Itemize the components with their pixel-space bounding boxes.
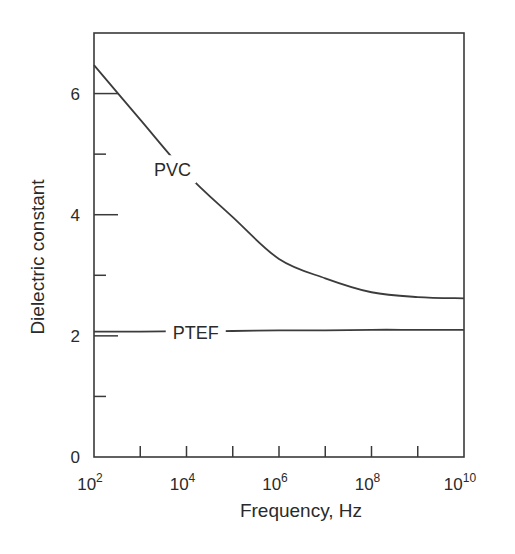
- tick-exponent: 2: [96, 471, 103, 485]
- x-tick-label: 102: [77, 471, 103, 494]
- y-tick-label: 4: [71, 206, 80, 225]
- series-layer: [94, 65, 464, 332]
- series-label-pvc: PVC: [154, 160, 191, 180]
- series-line-pvc: [94, 65, 464, 298]
- series-ptef: [94, 330, 464, 332]
- x-axis-tick-labels: 1021041061081010: [77, 471, 476, 494]
- x-tick-label: 104: [170, 471, 196, 494]
- x-tick-label: 106: [262, 471, 288, 494]
- tick-exponent: 6: [281, 471, 288, 485]
- dielectric-constant-chart: 1021041061081010 0246 PVCPTEF Frequency,…: [0, 0, 515, 554]
- tick-exponent: 10: [463, 471, 477, 485]
- x-axis-title: Frequency, Hz: [240, 500, 362, 521]
- x-axis-ticks: [140, 446, 418, 457]
- tick-base: 10: [444, 475, 463, 494]
- x-tick-label: 1010: [444, 471, 477, 494]
- series-label-ptef: PTEF: [173, 323, 219, 343]
- series-pvc: [94, 65, 464, 298]
- tick-base: 10: [170, 475, 189, 494]
- series-labels: PVCPTEF: [154, 160, 219, 342]
- y-axis-title: Dielectric constant: [27, 179, 48, 335]
- y-tick-label: 2: [71, 327, 80, 346]
- plot-border: [94, 33, 464, 457]
- plot-frame: [94, 33, 464, 457]
- y-tick-label: 6: [71, 85, 80, 104]
- tick-exponent: 8: [374, 471, 381, 485]
- y-axis-ticks: [94, 94, 118, 397]
- tick-base: 10: [77, 475, 96, 494]
- tick-base: 10: [355, 475, 374, 494]
- y-tick-label: 0: [71, 448, 80, 467]
- series-line-ptef: [94, 330, 464, 332]
- x-tick-label: 108: [355, 471, 381, 494]
- tick-exponent: 4: [189, 471, 196, 485]
- y-axis-tick-labels: 0246: [71, 85, 80, 467]
- tick-base: 10: [262, 475, 281, 494]
